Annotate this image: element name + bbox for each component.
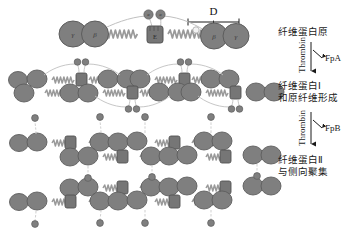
d-node bbox=[60, 179, 80, 197]
transition-1-product-label: FpA bbox=[325, 53, 342, 63]
transition-2-enzyme-label: Thrombin bbox=[297, 110, 307, 146]
transition-1-enzyme-label: Thrombin bbox=[297, 37, 307, 73]
alpha-circle bbox=[142, 220, 149, 227]
gamma-label: γ bbox=[235, 33, 238, 41]
d-node bbox=[27, 192, 47, 210]
d-node bbox=[261, 177, 281, 195]
gamma-label: γ bbox=[72, 31, 75, 39]
d-node bbox=[14, 84, 34, 102]
stage-2-label-line-2: 和原纤维形成 bbox=[278, 92, 338, 103]
alpha-circle bbox=[228, 106, 235, 113]
stage-3-label-line-2: 与侧向聚集 bbox=[278, 166, 328, 177]
e-domain-label: E bbox=[153, 33, 157, 40]
alpha-circle bbox=[236, 106, 243, 113]
d-node bbox=[201, 70, 221, 88]
alpha-circle bbox=[82, 59, 89, 66]
e-domain bbox=[65, 136, 76, 149]
fiber-b-strand-lower bbox=[10, 191, 233, 211]
d-node bbox=[212, 191, 232, 209]
d-node bbox=[130, 70, 150, 88]
fiber-a-strand-upper bbox=[10, 132, 233, 152]
stage-1-label-line-1: 纤维蛋白原 bbox=[278, 26, 328, 37]
beta-label: β bbox=[211, 33, 216, 41]
d-node bbox=[141, 147, 161, 165]
d-node bbox=[177, 146, 197, 164]
d-node bbox=[98, 70, 118, 88]
d-node bbox=[60, 148, 80, 166]
d-node bbox=[127, 191, 147, 209]
d-node bbox=[159, 178, 179, 196]
d-node bbox=[243, 177, 263, 195]
stage-1-label: 纤维蛋白原 bbox=[278, 26, 328, 37]
d-node bbox=[10, 194, 29, 211]
d-node bbox=[90, 192, 110, 210]
alpha-circle bbox=[97, 220, 104, 227]
d-node bbox=[181, 83, 201, 101]
d-node bbox=[159, 147, 179, 165]
alpha-circle bbox=[142, 114, 149, 121]
coiled-coil-right-stage1 bbox=[168, 30, 205, 38]
alpha-circle bbox=[254, 173, 261, 180]
d-node bbox=[60, 84, 80, 102]
e-domain-stage1: E bbox=[147, 26, 163, 43]
d-node bbox=[219, 70, 239, 88]
e-domain bbox=[220, 150, 231, 163]
beta-label: β bbox=[92, 31, 97, 39]
alpha-circle bbox=[149, 174, 156, 181]
d-node bbox=[27, 133, 47, 151]
d-node bbox=[108, 133, 128, 151]
e-domain bbox=[65, 195, 76, 208]
alpha-circle bbox=[208, 114, 215, 121]
alpha-circle bbox=[32, 221, 39, 228]
e-domain bbox=[127, 86, 138, 99]
d-node bbox=[177, 177, 197, 195]
d-node bbox=[10, 135, 29, 152]
stage-3-label-line-1: 纤维蛋白Ⅱ bbox=[278, 154, 323, 165]
alpha-circle bbox=[125, 106, 132, 113]
alpha-circle bbox=[185, 59, 192, 66]
binding-knob bbox=[193, 27, 199, 33]
fibrin-polymerization-diagram: D α α E bbox=[0, 0, 353, 243]
alpha-circle bbox=[85, 175, 92, 182]
protofibril-strand-upper bbox=[9, 70, 240, 89]
stage-3-label: 纤维蛋白Ⅱ 与侧向聚集 bbox=[278, 154, 328, 177]
d-node bbox=[243, 146, 263, 164]
alpha-circle bbox=[97, 114, 104, 121]
alpha-circle bbox=[208, 220, 215, 227]
alpha-circle bbox=[32, 115, 39, 122]
fiber-a-strand-lower bbox=[60, 146, 281, 166]
d-node bbox=[194, 132, 214, 150]
stage-2-label-line-1: 纤维蛋白Ⅰ bbox=[278, 80, 321, 91]
scale-bar-label: D bbox=[210, 5, 218, 17]
alpha-circle bbox=[177, 59, 184, 66]
alpha-circle bbox=[74, 59, 81, 66]
d-node bbox=[246, 83, 266, 101]
d-node bbox=[108, 192, 128, 210]
d-node bbox=[78, 147, 98, 165]
d-node bbox=[212, 132, 232, 150]
d-node bbox=[194, 191, 214, 209]
d-node bbox=[78, 84, 98, 102]
d-node bbox=[127, 132, 147, 150]
alpha-circle bbox=[133, 106, 140, 113]
e-domain bbox=[117, 150, 128, 163]
e-domain bbox=[169, 195, 180, 208]
transition-2-product-label: FpB bbox=[325, 123, 341, 133]
d-node bbox=[149, 83, 169, 101]
e-domain bbox=[230, 86, 241, 99]
